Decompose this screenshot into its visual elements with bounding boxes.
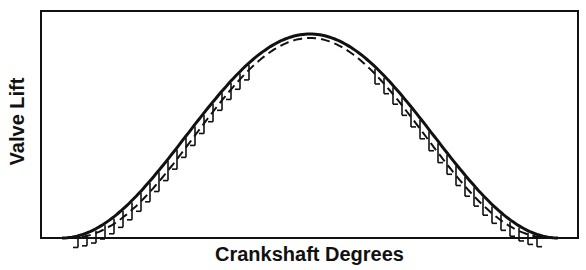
- y-axis-label: Valve Lift: [6, 67, 29, 177]
- x-axis-label: Crankshaft Degrees: [41, 243, 578, 266]
- chart-canvas: [0, 0, 586, 270]
- plot-frame: [41, 11, 578, 238]
- hatch-marks: [73, 65, 542, 247]
